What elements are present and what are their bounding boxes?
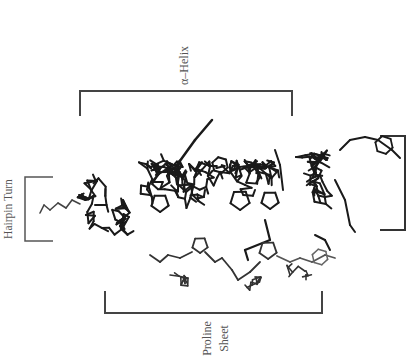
bond — [392, 150, 400, 158]
bond — [261, 203, 270, 209]
bond — [300, 258, 312, 262]
bond — [378, 140, 392, 150]
bond — [321, 163, 329, 168]
bond — [315, 166, 316, 175]
bond — [94, 224, 101, 228]
bond — [240, 203, 249, 210]
bond — [214, 177, 218, 185]
bond — [214, 170, 222, 172]
bond — [250, 262, 260, 272]
bond — [168, 255, 180, 258]
bond — [181, 285, 188, 286]
bond — [230, 161, 232, 168]
bond — [178, 197, 185, 199]
bond — [151, 206, 160, 212]
bond — [318, 249, 326, 251]
bond — [167, 161, 168, 168]
bond — [150, 255, 160, 262]
bond — [322, 259, 328, 264]
bond — [275, 150, 280, 165]
helix-label: α–Helix — [177, 46, 192, 85]
bond — [165, 189, 175, 190]
bond — [325, 240, 330, 250]
bond — [382, 136, 391, 139]
bond — [275, 193, 278, 203]
bond — [324, 194, 326, 204]
bond — [177, 140, 195, 165]
bond — [327, 191, 332, 196]
bond — [215, 258, 222, 262]
bond — [72, 200, 80, 204]
bond — [156, 164, 157, 175]
bond — [340, 140, 350, 150]
bond — [304, 173, 311, 175]
bond — [161, 154, 164, 160]
bond — [245, 185, 252, 188]
bond — [198, 201, 204, 205]
bond — [326, 252, 328, 260]
bond — [290, 258, 300, 262]
bond — [270, 203, 278, 209]
bond — [218, 157, 226, 159]
bond — [44, 205, 50, 210]
bond — [200, 247, 208, 253]
bond — [195, 120, 212, 140]
bond — [261, 193, 264, 203]
bond — [315, 175, 322, 176]
bond — [226, 160, 228, 168]
bond — [206, 179, 207, 187]
bond — [156, 161, 164, 164]
sheet-label: Sheet — [217, 325, 232, 352]
hairpin-label: Hairpin Turn — [2, 179, 14, 239]
bond — [315, 235, 325, 240]
bond — [350, 137, 365, 140]
bond — [326, 204, 331, 208]
bond — [105, 196, 106, 205]
peptide-structure — [0, 0, 416, 363]
bond — [179, 185, 190, 186]
bond — [245, 240, 270, 250]
bond — [40, 205, 44, 213]
bond — [160, 206, 168, 212]
bond — [312, 249, 318, 254]
bond — [391, 139, 393, 148]
bond — [335, 180, 345, 200]
bond — [66, 200, 72, 208]
bond — [165, 196, 168, 206]
bond — [212, 163, 214, 171]
bond — [180, 252, 192, 258]
bond — [160, 255, 168, 262]
bond — [293, 266, 299, 272]
bond — [192, 248, 200, 253]
bond — [204, 190, 205, 197]
bond — [222, 258, 232, 270]
bond — [205, 238, 208, 247]
bond — [318, 196, 325, 197]
bond — [231, 192, 234, 203]
bond — [152, 184, 158, 189]
bond — [192, 239, 195, 248]
bond — [87, 204, 92, 212]
proline-label: Proline — [200, 321, 215, 356]
bond — [58, 203, 66, 208]
bond — [268, 253, 276, 259]
bond — [237, 181, 245, 185]
bond — [98, 178, 105, 186]
bond — [185, 192, 186, 199]
bond — [256, 277, 257, 284]
bond — [246, 174, 249, 183]
bond — [246, 192, 250, 203]
bond — [375, 142, 377, 151]
bond — [205, 252, 215, 262]
bond — [350, 225, 355, 232]
bond — [206, 187, 208, 194]
bond — [377, 151, 386, 154]
bond — [273, 243, 276, 253]
bond — [107, 205, 109, 212]
bond — [277, 256, 290, 262]
bond — [247, 285, 252, 288]
bond — [314, 262, 322, 264]
bond — [238, 272, 250, 280]
bond — [141, 194, 150, 195]
bond — [298, 266, 305, 271]
